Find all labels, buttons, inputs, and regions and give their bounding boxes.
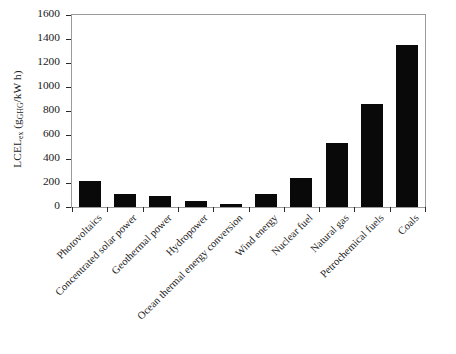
- y-axis-title-unit-open: (g: [11, 119, 23, 132]
- y-axis-tick-label: 1200: [37, 55, 60, 67]
- y-axis-tick-label: 400: [43, 151, 60, 163]
- y-axis-tick-mark: [66, 207, 71, 208]
- y-axis-tick-label: 1600: [37, 7, 60, 19]
- bar: [114, 194, 136, 207]
- y-axis-title-unit-close: /kW h): [11, 70, 23, 102]
- y-axis-tick-mark: [66, 159, 71, 160]
- y-axis-tick-mark: [66, 111, 71, 112]
- bar: [396, 45, 418, 207]
- bar: [255, 194, 277, 207]
- y-axis-tick-label: 600: [43, 127, 60, 139]
- x-axis-label: Coals: [396, 212, 421, 237]
- bar-chart: LCELex (gGHG/kW h) 020040060080010001200…: [0, 0, 456, 354]
- y-axis-tick-mark: [66, 183, 71, 184]
- bar-slot: [72, 15, 107, 207]
- y-axis-title: LCELex (gGHG/kW h): [4, 28, 30, 210]
- bar-slot: [354, 15, 389, 207]
- y-axis-title-unit-subscript: GHG: [16, 102, 25, 119]
- y-axis-tick-label: 1400: [37, 31, 60, 43]
- bar: [326, 143, 348, 207]
- y-axis-tick-label: 200: [43, 175, 60, 187]
- y-axis-tick-label: 0: [54, 199, 60, 211]
- bar-slot: [284, 15, 319, 207]
- bar-slot: [319, 15, 354, 207]
- y-axis-tick-mark: [66, 135, 71, 136]
- bar-slot: [213, 15, 248, 207]
- y-axis-tick-mark: [66, 87, 71, 88]
- bar: [361, 104, 383, 207]
- y-axis-title-main: LCEL: [11, 139, 23, 168]
- y-axis-tick-mark: [66, 63, 71, 64]
- bar-slot: [178, 15, 213, 207]
- bars-layer: [72, 15, 425, 207]
- bar: [290, 178, 312, 207]
- bar-slot: [390, 15, 425, 207]
- y-axis-title-text: LCELex (gGHG/kW h): [11, 70, 23, 167]
- y-axis-title-main-subscript: ex: [16, 132, 25, 139]
- bar-slot: [107, 15, 142, 207]
- y-axis-tick-mark: [66, 39, 71, 40]
- bar: [149, 196, 171, 207]
- x-axis-labels: PhotovoltaicsConcentrated solar powerGeo…: [0, 212, 456, 354]
- x-axis-label: Petrochemical fuels: [318, 212, 386, 280]
- bar-slot: [143, 15, 178, 207]
- y-axis-tick-label: 1000: [37, 79, 60, 91]
- y-axis-tick-mark: [66, 15, 71, 16]
- x-axis-label: Geothermal power: [110, 212, 174, 276]
- bar: [79, 181, 101, 207]
- bar-slot: [249, 15, 284, 207]
- y-axis-tick-label: 800: [43, 103, 60, 115]
